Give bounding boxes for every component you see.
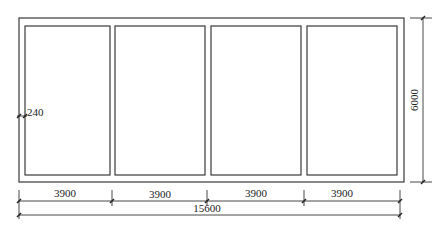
room-3 bbox=[211, 26, 301, 175]
room-2 bbox=[115, 26, 205, 175]
room-1 bbox=[25, 26, 110, 175]
room-4 bbox=[307, 26, 397, 175]
total-length-dimension: 15600 bbox=[17, 202, 402, 217]
wall-thickness-dimension: 240 bbox=[17, 106, 44, 118]
bay-1-dimension: 3900 bbox=[54, 187, 77, 199]
wall-thickness-label: 240 bbox=[27, 106, 44, 118]
floor-plan-drawing: 240 3900 3900 3900 3900 15600 6000 bbox=[0, 0, 445, 235]
bay-4-dimension: 3900 bbox=[331, 187, 354, 199]
bay-3-dimension: 3900 bbox=[245, 187, 268, 199]
depth-label: 6000 bbox=[408, 89, 420, 112]
total-length-label: 15600 bbox=[193, 202, 221, 214]
depth-dimension: 6000 bbox=[408, 16, 432, 184]
bay-2-dimension: 3900 bbox=[149, 188, 172, 200]
